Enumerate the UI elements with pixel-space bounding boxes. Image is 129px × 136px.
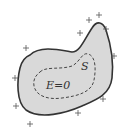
conductor-diagram: S E=0 [0, 0, 129, 136]
plus-charge-icon [96, 12, 102, 18]
plus-charge-icon [23, 45, 29, 51]
field-label: E=0 [45, 79, 70, 92]
plus-charge-icon [86, 17, 92, 23]
plus-charge-icon [75, 110, 81, 116]
surface-label: S [81, 60, 89, 73]
conductor-body [18, 23, 113, 115]
plus-charge-icon [27, 121, 33, 127]
plus-charge-icon [13, 103, 19, 109]
plus-charge-icon [12, 75, 18, 81]
plus-charge-icon [77, 30, 83, 36]
